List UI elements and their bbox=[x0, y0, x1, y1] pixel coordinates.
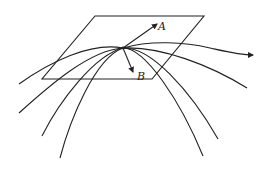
curve-3 bbox=[42, 48, 218, 139]
curve-4 bbox=[60, 48, 203, 158]
vector-b-arrow bbox=[123, 48, 133, 72]
vector-a-label: A bbox=[157, 20, 166, 33]
curve-2 bbox=[19, 48, 247, 113]
tangent-point bbox=[122, 47, 125, 50]
vector-b-label: B bbox=[136, 70, 145, 83]
curve-1 bbox=[19, 43, 253, 84]
diagram: A B bbox=[0, 0, 268, 170]
